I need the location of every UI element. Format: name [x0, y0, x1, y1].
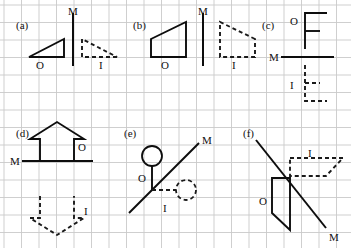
panel-c-object-label: O [290, 16, 298, 27]
panel-d-object-label: O [78, 142, 86, 153]
panel-label-e: (e) [124, 128, 136, 139]
panel-d-image-label: I [84, 206, 88, 217]
grid-layer [0, 0, 351, 248]
panel-label-d: (d) [16, 128, 29, 139]
panel-f-image-label: I [308, 148, 312, 159]
panel-e-mirror-label: M [202, 135, 212, 146]
panel-e-object-label: O [138, 173, 146, 184]
panel-b-object-label: O [161, 60, 169, 71]
panel-label-f: (f) [243, 128, 254, 139]
panel-d-mirror-label: M [10, 156, 20, 167]
panel-f-object-label: O [259, 196, 267, 207]
panel-f-mirror-label: M [329, 232, 339, 243]
panel-c-image-label: I [290, 80, 294, 91]
panel-label-c: (c) [262, 20, 274, 31]
panel-a-image-label: I [99, 60, 103, 71]
panel-e-image-label: I [163, 203, 167, 214]
reflection-worksheet-figure: (a)MOI(b)MOI(c)MOI(d)MOI(e)MOI(f)MOI [0, 0, 351, 248]
panel-a-object-label: O [36, 60, 44, 71]
panel-b-mirror-label: M [198, 6, 208, 17]
panel-label-a: (a) [16, 20, 28, 31]
panel-a-mirror-label: M [68, 6, 78, 17]
panel-c-mirror-label: M [269, 52, 279, 63]
panel-label-b: (b) [133, 20, 146, 31]
panel-b-image-label: I [232, 60, 236, 71]
